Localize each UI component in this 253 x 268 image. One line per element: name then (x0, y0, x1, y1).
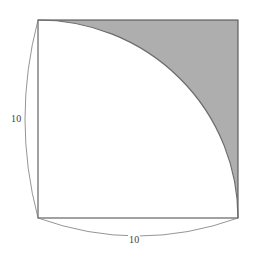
left-side-dimension-arc (25, 20, 38, 218)
bottom-side-dimension-label: 10 (128, 234, 140, 245)
geometry-figure: 10 10 (0, 0, 253, 268)
figure-canvas (0, 0, 253, 268)
left-side-dimension-label: 10 (10, 113, 22, 124)
